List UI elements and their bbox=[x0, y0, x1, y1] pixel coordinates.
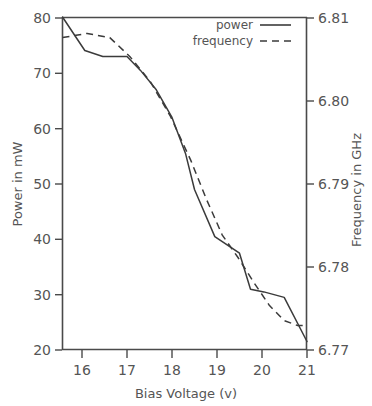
y-right-tick-label-680: 6.80 bbox=[318, 93, 349, 109]
chart-legend: power frequency bbox=[193, 18, 291, 48]
y-left-tick-label-70: 70 bbox=[33, 65, 51, 81]
plot-frame bbox=[62, 17, 307, 350]
x-axis-title: Bias Voltage (v) bbox=[135, 386, 237, 401]
legend-label-power: power bbox=[216, 18, 253, 32]
x-tick-label-17: 17 bbox=[118, 362, 136, 378]
y-right-tick-label-678: 6.78 bbox=[318, 259, 349, 275]
y-left-tick-labels: 80 70 60 50 40 30 20 bbox=[33, 10, 51, 358]
y-left-axis-title: Power in mW bbox=[10, 141, 25, 226]
x-ticks bbox=[82, 350, 307, 358]
y-right-ticks bbox=[307, 18, 314, 350]
legend-label-frequency: frequency bbox=[193, 34, 253, 48]
x-tick-label-21: 21 bbox=[298, 362, 316, 378]
x-tick-label-19: 19 bbox=[208, 362, 226, 378]
x-tick-labels: 16 17 18 19 20 21 bbox=[73, 362, 316, 378]
chart-figure: 80 70 60 50 40 30 20 6.81 6.80 6.79 6.78… bbox=[0, 0, 372, 406]
y-left-tick-label-80: 80 bbox=[33, 10, 51, 26]
y-left-tick-label-60: 60 bbox=[33, 121, 51, 137]
line-chart-canvas: 80 70 60 50 40 30 20 6.81 6.80 6.79 6.78… bbox=[0, 0, 372, 406]
y-right-axis-title: Frequency in GHz bbox=[349, 133, 364, 247]
y-left-tick-label-40: 40 bbox=[33, 231, 51, 247]
y-right-tick-label-677: 6.77 bbox=[318, 342, 349, 358]
y-left-tick-label-50: 50 bbox=[33, 176, 51, 192]
x-tick-label-16: 16 bbox=[73, 362, 91, 378]
y-left-tick-label-30: 30 bbox=[33, 287, 51, 303]
y-right-tick-label-679: 6.79 bbox=[318, 176, 349, 192]
y-left-tick-label-20: 20 bbox=[33, 342, 51, 358]
series-line-frequency bbox=[63, 33, 308, 325]
series-line-power bbox=[63, 17, 308, 342]
x-tick-label-20: 20 bbox=[253, 362, 271, 378]
x-tick-label-18: 18 bbox=[163, 362, 181, 378]
y-left-ticks bbox=[55, 18, 62, 350]
y-right-tick-label-681: 6.81 bbox=[318, 10, 349, 26]
y-right-tick-labels: 6.81 6.80 6.79 6.78 6.77 bbox=[318, 10, 349, 358]
